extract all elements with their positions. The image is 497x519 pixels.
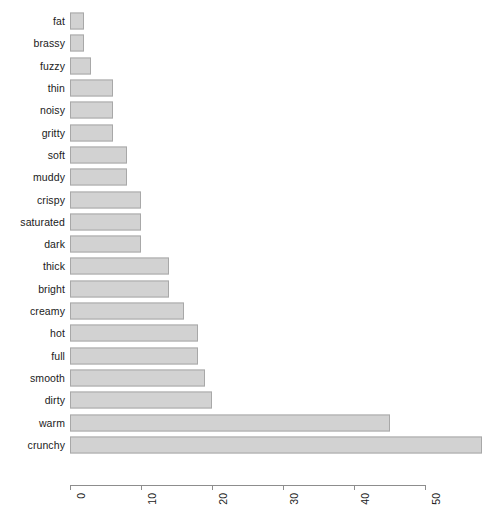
bar [70,236,141,253]
category-label: fat [53,15,65,27]
bar-row: creamy [0,300,497,322]
category-label: fuzzy [40,60,65,72]
bar [70,169,127,186]
category-label: smooth [30,372,65,384]
category-label: brassy [33,37,65,49]
category-label: crunchy [28,439,65,451]
x-axis-tick-label: 30 [288,493,300,505]
x-axis-tick [212,485,213,490]
bar-row: saturated [0,211,497,233]
bar-row: crunchy [0,434,497,456]
bar-row: noisy [0,99,497,121]
x-axis-line [70,485,426,486]
category-label: full [51,350,65,362]
bar-row: hot [0,322,497,344]
category-label: warm [39,417,65,429]
bar [70,325,198,342]
bar-row: dirty [0,389,497,411]
category-label: bright [38,283,65,295]
bar [70,80,113,97]
x-axis-tick [70,485,71,490]
bar [70,213,141,230]
bar-row: warm [0,411,497,433]
bar-row: thin [0,77,497,99]
bar [70,369,205,386]
bar [70,436,482,453]
category-label: hot [50,327,65,339]
category-label: dark [44,238,65,250]
bar-row: brassy [0,32,497,54]
bar [70,191,141,208]
bar [70,414,390,431]
x-axis-tick-label: 40 [359,493,371,505]
bar [70,13,84,30]
bar-row: fuzzy [0,55,497,77]
bar-row: smooth [0,367,497,389]
x-axis-tick [141,485,142,490]
category-label: saturated [20,216,65,228]
category-label: crispy [37,194,65,206]
category-label: creamy [30,305,65,317]
bar [70,303,184,320]
bar [70,57,91,74]
x-axis-tick-label: 10 [146,493,158,505]
x-axis-tick [283,485,284,490]
category-label: dirty [45,394,65,406]
bar-row: thick [0,255,497,277]
category-label: thin [48,82,65,94]
bar-row: muddy [0,166,497,188]
bar [70,280,169,297]
category-label: soft [48,149,65,161]
category-label: noisy [40,104,65,116]
x-axis-tick-label: 20 [217,493,229,505]
bar-row: dark [0,233,497,255]
category-label: muddy [33,171,65,183]
bar-row: fat [0,10,497,32]
bar-row: full [0,345,497,367]
plot-area: fatbrassyfuzzythinnoisygrittysoftmuddycr… [0,0,497,519]
bar [70,392,212,409]
bar [70,146,127,163]
category-label: gritty [42,127,65,139]
bar-row: gritty [0,122,497,144]
x-axis-tick [425,485,426,490]
bar-row: soft [0,144,497,166]
bar [70,347,198,364]
bar [70,258,169,275]
x-axis-tick-label: 50 [430,493,442,505]
x-axis-tick-label: 0 [75,493,87,499]
bar-row: crispy [0,188,497,210]
x-axis-tick [354,485,355,490]
bar-row: bright [0,278,497,300]
bar [70,102,113,119]
category-label: thick [43,260,65,272]
bar [70,124,113,141]
bar-chart: fatbrassyfuzzythinnoisygrittysoftmuddycr… [0,0,497,519]
bar [70,35,84,52]
